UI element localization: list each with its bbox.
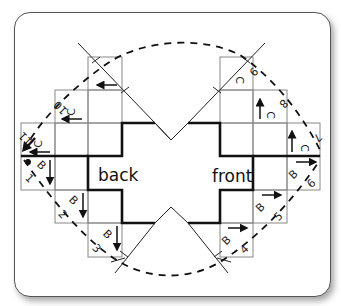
dashed-arcs (24, 43, 320, 276)
cell-2-number: 2 (55, 207, 69, 221)
cell-4-number: 4 (237, 242, 251, 256)
cell-1-number: 1 (22, 171, 36, 185)
cell-5-number: 5 (271, 209, 285, 223)
cell-6-number: 6 (304, 176, 318, 190)
cell-3-number: 3 (89, 241, 103, 255)
cell-2-letter: B (66, 193, 81, 208)
cell-10-letter: C (65, 108, 78, 116)
front-label: front (212, 166, 253, 186)
cell-7-letter: C (298, 144, 311, 152)
cell-3-letter: B (100, 227, 115, 242)
cell-5-letter: B (253, 200, 268, 215)
cell-4-letter: B (219, 233, 234, 248)
folding-diagram: 10 C 11 C B 1 B 2 B 3 B 4 B 5 B 6 7 C 8 … (0, 0, 341, 306)
cell-11-letter: C (32, 140, 45, 148)
cell-1-letter: B (34, 158, 49, 173)
dot-marker-icon (25, 159, 31, 165)
cell-8-number: 8 (276, 96, 290, 110)
cell-9-letter: C (233, 76, 246, 84)
back-label: back (98, 165, 139, 185)
cell-6-letter: B (286, 167, 301, 182)
tick-marks (92, 57, 250, 262)
cell-8-letter: C (264, 111, 277, 119)
cell-labels: 10 C 11 C B 1 B 2 B 3 B 4 B 5 B 6 7 C 8 … (16, 64, 325, 256)
